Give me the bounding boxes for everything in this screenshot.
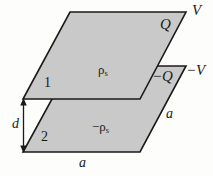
separation-dimension-arrow bbox=[20, 98, 27, 153]
label-separation-d: d bbox=[12, 117, 19, 131]
label-charge-bottom: −Q bbox=[152, 69, 173, 84]
label-surface-charge-density-bottom: −ρs bbox=[92, 120, 109, 134]
capacitor-drawing bbox=[0, 0, 213, 176]
rho-symbol-bottom: −ρ bbox=[92, 119, 106, 134]
label-surface-charge-density-top: ρs bbox=[98, 63, 108, 77]
label-side-a-right: a bbox=[166, 107, 173, 121]
label-side-a-bottom: a bbox=[79, 156, 86, 170]
rho-subscript-top: s bbox=[105, 68, 108, 78]
rho-subscript-bottom: s bbox=[106, 125, 109, 135]
label-potential-top: V bbox=[192, 3, 201, 18]
label-plate-two: 2 bbox=[41, 130, 48, 144]
label-potential-bottom: −V bbox=[186, 63, 205, 78]
label-plate-one: 1 bbox=[44, 76, 51, 90]
capacitor-figure: V Q −V −Q ρs −ρs 1 2 d a a bbox=[0, 0, 213, 176]
label-charge-top: Q bbox=[160, 17, 171, 32]
